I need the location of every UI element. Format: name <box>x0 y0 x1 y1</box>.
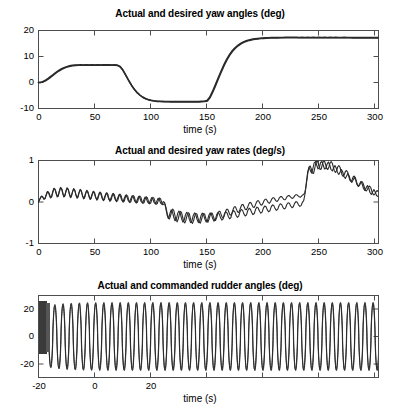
xtick-label-1-150: 150 <box>192 111 222 122</box>
series-yaw-rate-lines <box>39 161 379 223</box>
xtick-label-3-0: -20 <box>26 380 52 391</box>
xtick-label-2-300: 300 <box>360 246 390 257</box>
xtick-label-3-100: 20 <box>136 380 166 391</box>
xtick-label-3-50: 0 <box>82 380 108 391</box>
axes-frame-1 <box>39 31 379 109</box>
xtick-label-2-50: 50 <box>82 246 108 257</box>
y-ticks-1 <box>39 31 379 109</box>
xtick-label-2-0: 0 <box>26 246 52 257</box>
xtick-label-2-150: 150 <box>192 246 222 257</box>
figure-root: Actual and desired yaw angles (deg) <box>0 0 400 417</box>
x-ticks-1 <box>39 31 375 109</box>
xtick-label-1-0: 0 <box>26 111 52 122</box>
ytick-label-1-0: 0 <box>8 76 34 87</box>
axes-frame-2 <box>39 161 379 244</box>
series-line-actual-yaw <box>39 38 379 102</box>
xaxis-label-yaw-rates: time (s) <box>0 259 400 270</box>
subplot-rudder-angles: Actual and commanded rudder angles (deg) <box>0 277 400 417</box>
rudder-initial-transient-band-2 <box>46 303 50 352</box>
series-line-yaw-rate <box>39 161 379 223</box>
ytick-label-3-neg20: -20 <box>6 358 34 369</box>
y-ticks-2 <box>39 161 379 244</box>
subplot-yaw-angles: Actual and desired yaw angles (deg) <box>0 0 400 140</box>
series-line-yaw-rate-secondary <box>39 162 379 223</box>
ytick-label-2-1: 1 <box>10 154 34 165</box>
xtick-label-1-100: 100 <box>136 111 166 122</box>
xtick-label-2-100: 100 <box>136 246 166 257</box>
xtick-label-2-250: 250 <box>304 246 334 257</box>
series-rudder-lines <box>39 301 378 371</box>
ytick-label-3-0: 0 <box>8 330 34 341</box>
xtick-label-1-200: 200 <box>248 111 278 122</box>
ytick-label-1-10: 10 <box>8 50 34 61</box>
ytick-label-3-20: 20 <box>8 303 34 314</box>
series-line-desired-yaw <box>39 37 379 101</box>
ytick-label-1-20: 20 <box>8 24 34 35</box>
rudder-initial-transient-band <box>39 301 47 354</box>
xaxis-label-rudder-angles: time (s) <box>0 393 400 404</box>
series-yaw-angle-lines <box>39 37 379 102</box>
ytick-label-2-0: 0 <box>10 196 34 207</box>
xtick-label-1-250: 250 <box>304 111 334 122</box>
x-ticks-2 <box>39 161 375 244</box>
xtick-label-1-300: 300 <box>360 111 390 122</box>
xtick-label-2-200: 200 <box>248 246 278 257</box>
xtick-label-1-50: 50 <box>82 111 108 122</box>
subplot-yaw-rates: Actual and desired yaw rates (deg/s) <box>0 140 400 277</box>
xaxis-label-yaw-angles: time (s) <box>0 124 400 135</box>
